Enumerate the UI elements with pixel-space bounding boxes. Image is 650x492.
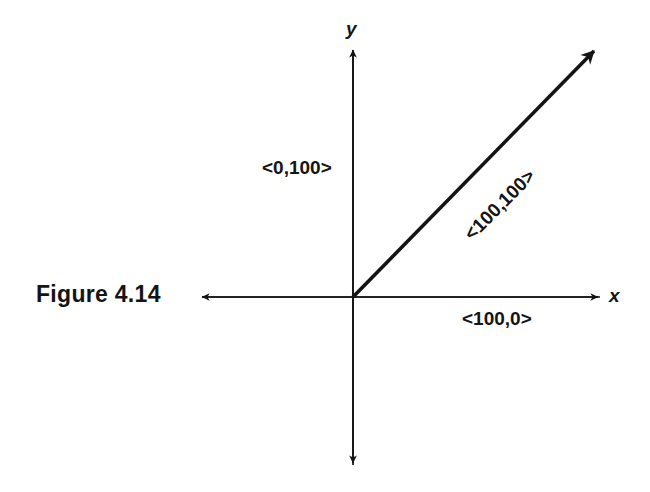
vector-label-100-0: <100,0> [462,308,532,330]
x-axis-label: x [609,285,620,307]
vector-label-0-100: <0,100> [262,157,332,179]
figure-canvas: Figure 4.14 y x <0,100> <100,0> <100,100… [0,0,650,492]
vector-100-100-arrow [353,51,594,297]
vector-diagram [0,0,650,492]
figure-caption: Figure 4.14 [36,281,161,308]
y-axis-label: y [346,18,357,40]
